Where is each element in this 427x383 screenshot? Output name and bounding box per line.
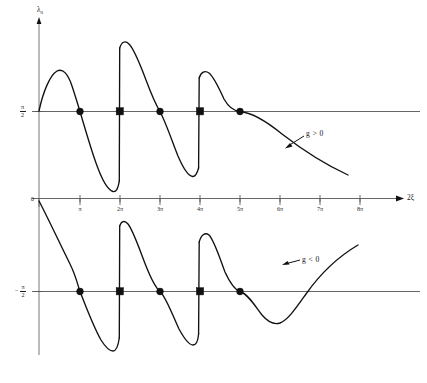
marker-square-2pi — [116, 108, 123, 115]
annotation-g-positive: g > 0 — [306, 129, 324, 138]
lower-y-tick-fraction: π 2 — [20, 284, 26, 299]
annotation-g-negative: g < 0 — [302, 255, 320, 264]
marker-circle-pi — [77, 288, 84, 295]
figure-container: g > 0 π 2π 3π 4π 5π 6π 7π 8π 0 — [0, 0, 427, 383]
x-axis-label: 2ξ — [407, 193, 414, 202]
lower-y-tick-denominator: 2 — [21, 292, 26, 298]
g-negative-arrow-icon — [282, 261, 290, 265]
marker-circle-pi — [77, 108, 84, 115]
x-tick-label-2pi: 2π — [117, 205, 124, 212]
lower-y-tick-numerator: π — [21, 284, 26, 290]
upper-curve-branch-1 — [39, 70, 119, 191]
x-tick-label-8pi: 8π — [357, 205, 364, 212]
upper-curve-jump-2 — [199, 78, 200, 168]
x-tick-label-5pi: 5π — [237, 205, 244, 212]
marker-circle-3pi — [157, 108, 164, 115]
upper-x-tick-labels: π 2π 3π 4π 5π 6π 7π 8π — [78, 205, 364, 212]
lower-curve-branch-2 — [120, 222, 199, 345]
upper-curve-branch-3 — [199, 72, 348, 175]
lower-y-tick-label: − π 2 — [15, 284, 26, 299]
y-axis-label: λ0 — [37, 6, 43, 15]
upper-y-tick-label: π 2 — [18, 104, 26, 119]
upper-x-axis-arrow-icon — [396, 196, 404, 202]
upper-y-tick-fraction: π 2 — [20, 104, 26, 119]
lower-curve-branch-1 — [39, 201, 119, 351]
upper-y-tick-denominator: 2 — [20, 112, 25, 118]
upper-panel: g > 0 π 2π 3π 4π 5π 6π 7π 8π 0 — [31, 17, 420, 212]
x-tick-label-6pi: 6π — [277, 205, 284, 212]
upper-y-tick-numerator: π — [20, 104, 25, 110]
lower-panel: g < 0 — [32, 199, 420, 355]
lower-curve-branch-3 — [199, 234, 358, 324]
plot-canvas: g > 0 π 2π 3π 4π 5π 6π 7π 8π 0 — [0, 0, 427, 383]
x-tick-label-4pi: 4π — [197, 205, 204, 212]
marker-square-4pi — [196, 108, 203, 115]
marker-circle-5pi — [237, 108, 244, 115]
marker-square-4pi — [196, 288, 203, 295]
x-tick-label-7pi: 7π — [317, 205, 324, 212]
x-tick-label-pi: π — [78, 205, 82, 212]
marker-circle-3pi — [157, 288, 164, 295]
lower-y-tick-sign: − — [15, 288, 19, 294]
marker-square-2pi — [116, 288, 123, 295]
marker-circle-5pi — [237, 288, 244, 295]
x-tick-label-3pi: 3π — [157, 205, 164, 212]
y-axis-label-subscript: 0 — [41, 10, 44, 15]
upper-y-axis-arrow-icon — [37, 17, 42, 24]
